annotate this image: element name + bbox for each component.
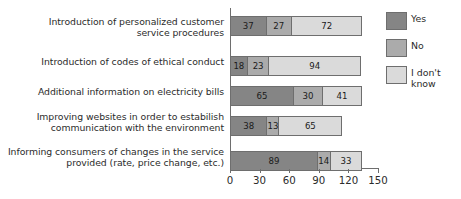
category-label-2: Additional information on electricity bi… xyxy=(38,86,224,97)
x-axis-tick xyxy=(289,169,290,173)
x-axis-tick-label: 90 xyxy=(312,175,325,186)
legend-item-no[interactable]: No xyxy=(386,39,461,57)
x-axis-tick-label: 150 xyxy=(368,175,387,186)
bar-segment: 72 xyxy=(291,16,362,36)
bar-value-label: 13 xyxy=(267,121,278,131)
bar-row: 653041 xyxy=(230,86,362,106)
category-label-1: Introduction of codes of ethical conduct xyxy=(41,56,224,67)
legend-label-dont-know: I don't know xyxy=(411,66,441,89)
bar-segment: 94 xyxy=(268,56,361,76)
bar-value-label: 23 xyxy=(253,61,264,71)
bar-segment: 37 xyxy=(230,16,267,36)
category-axis-labels: Introduction of personalized customer se… xyxy=(0,0,228,170)
plot-area: 372772182394653041381365891433 xyxy=(230,8,378,168)
x-axis-tick-label: 120 xyxy=(339,175,358,186)
x-axis-tick-label: 30 xyxy=(253,175,266,186)
bar-value-label: 27 xyxy=(273,21,284,31)
bar-value-label: 89 xyxy=(268,156,279,166)
bar-segment: 23 xyxy=(247,56,270,76)
x-axis-tick xyxy=(260,169,261,173)
legend-item-dont-know[interactable]: I don't know xyxy=(386,66,461,89)
category-label-4: Informing consumers of changes in the se… xyxy=(8,146,224,169)
bar-value-label: 37 xyxy=(243,21,254,31)
stacked-bar-chart: Introduction of personalized customer se… xyxy=(0,0,461,199)
chart-legend: Yes No I don't know xyxy=(386,12,461,98)
bar-value-label: 33 xyxy=(340,156,351,166)
bar-value-label: 94 xyxy=(309,61,320,71)
x-axis-tick-label: 60 xyxy=(283,175,296,186)
legend-item-yes[interactable]: Yes xyxy=(386,12,461,30)
bar-value-label: 41 xyxy=(336,91,347,101)
legend-label-no: No xyxy=(411,39,424,51)
legend-swatch-dont-know xyxy=(386,66,407,84)
bar-segment: 33 xyxy=(330,151,363,171)
x-axis-tick xyxy=(319,169,320,173)
bar-segment: 65 xyxy=(278,116,342,136)
bar-row: 891433 xyxy=(230,151,362,171)
bar-segment: 27 xyxy=(266,16,293,36)
bar-segment: 14 xyxy=(317,151,331,171)
x-axis-tick xyxy=(230,169,231,173)
bar-value-label: 18 xyxy=(233,61,244,71)
bar-segment: 65 xyxy=(230,86,294,106)
bar-row: 372772 xyxy=(230,16,362,36)
bar-segment: 30 xyxy=(293,86,323,106)
x-axis-tick xyxy=(348,169,349,173)
bar-value-label: 30 xyxy=(302,91,313,101)
legend-swatch-no xyxy=(386,39,407,57)
legend-label-yes: Yes xyxy=(411,12,426,24)
bar-value-label: 38 xyxy=(243,121,254,131)
x-axis-tick xyxy=(378,169,379,173)
bar-segment: 38 xyxy=(230,116,267,136)
bar-value-label: 65 xyxy=(257,91,268,101)
bar-segment: 89 xyxy=(230,151,318,171)
bar-value-label: 72 xyxy=(321,21,332,31)
bar-row: 381365 xyxy=(230,116,342,136)
bar-row: 182394 xyxy=(230,56,361,76)
bar-value-label: 14 xyxy=(318,156,329,166)
category-label-3: Improving websites in order to estabilis… xyxy=(37,111,224,134)
bar-value-label: 65 xyxy=(305,121,316,131)
category-label-0: Introduction of personalized customer se… xyxy=(49,16,224,39)
bar-segment: 18 xyxy=(230,56,248,76)
bar-segment: 41 xyxy=(322,86,362,106)
x-axis-tick-label: 0 xyxy=(227,175,233,186)
legend-swatch-yes xyxy=(386,12,407,30)
